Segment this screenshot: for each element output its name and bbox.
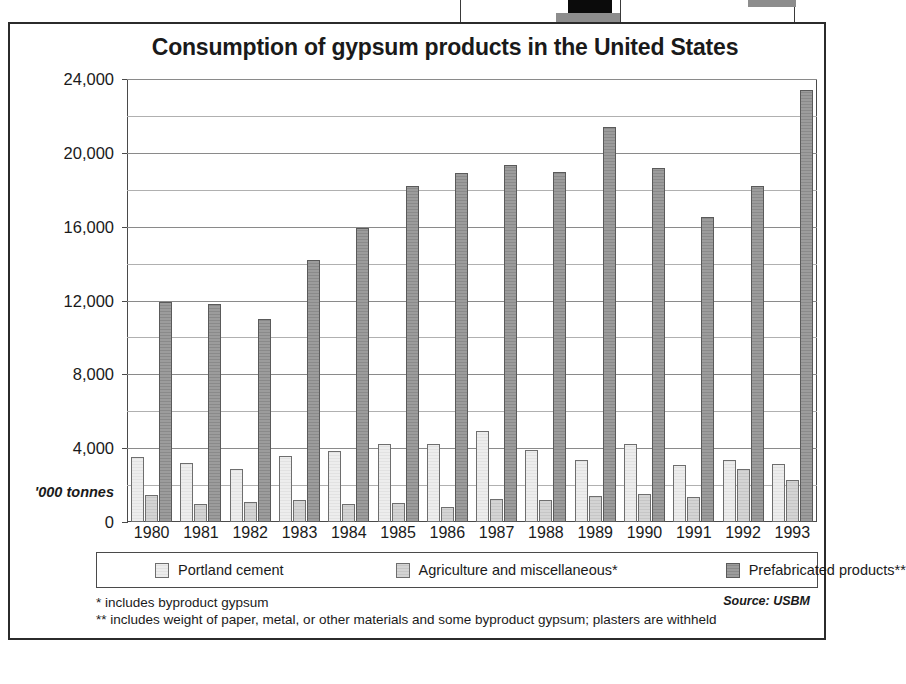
x-axis-tick-label: 1990: [620, 524, 669, 548]
bar-group: [176, 79, 225, 522]
bar-1982-series-1: [244, 502, 257, 522]
x-axis-tick-label: 1988: [521, 524, 570, 548]
bar-1992-series-0: [723, 460, 736, 522]
bar-group: [324, 79, 373, 522]
bar-1985-series-2: [406, 186, 419, 522]
chart-legend: Portland cementAgriculture and miscellan…: [96, 552, 818, 588]
bar-1986-series-0: [427, 444, 440, 522]
footnote-2: ** includes weight of paper, metal, or o…: [96, 611, 818, 628]
legend-item-0: Portland cement: [155, 562, 284, 578]
bar-1985-series-0: [378, 444, 391, 522]
bar-group: [226, 79, 275, 522]
legend-label: Prefabricated products**: [749, 562, 906, 578]
bar-1980-series-0: [131, 457, 144, 522]
x-axis-tick-label: 1991: [669, 524, 718, 548]
bar-1993-series-1: [786, 480, 799, 522]
y-axis-tick-mark: [122, 522, 128, 523]
bar-1985-series-1: [392, 503, 405, 522]
plot-area: [127, 79, 817, 522]
x-axis-tick-label: 1993: [768, 524, 817, 548]
bar-1993-series-2: [800, 90, 813, 522]
source-credit: Source: USBM: [723, 594, 810, 608]
adjacent-figure-fragment: [460, 0, 844, 22]
bar-group: [620, 79, 669, 522]
bar-1986-series-1: [441, 507, 454, 522]
x-axis-tick-label: 1987: [472, 524, 521, 548]
bar-1982-series-2: [258, 319, 271, 522]
y-axis-tick-label: 0: [105, 513, 114, 532]
fragment-base-bar-right: [748, 0, 796, 7]
x-axis-tick-label: 1985: [373, 524, 422, 548]
x-axis-tick-label: 1986: [423, 524, 472, 548]
bar-1988-series-0: [525, 450, 538, 522]
footnotes: * includes byproduct gypsum ** includes …: [96, 594, 818, 628]
legend-swatch-icon: [726, 563, 740, 578]
bar-1984-series-1: [342, 504, 355, 522]
bar-group: [768, 79, 817, 522]
bar-1987-series-0: [476, 431, 489, 522]
x-axis-tick-label: 1983: [275, 524, 324, 548]
bar-1981-series-2: [208, 304, 221, 522]
bar-group: [669, 79, 718, 522]
bar-1983-series-2: [307, 260, 320, 522]
legend-item-2: Prefabricated products**: [726, 562, 906, 578]
bar-1981-series-0: [180, 463, 193, 522]
bar-group: [571, 79, 620, 522]
chart-title: Consumption of gypsum products in the Un…: [10, 34, 824, 61]
y-axis-tick-label: 8,000: [73, 365, 114, 384]
x-axis: 1980198119821983198419851986198719881989…: [127, 524, 817, 548]
bar-1991-series-2: [701, 217, 714, 522]
x-axis-tick-label: 1981: [176, 524, 225, 548]
bar-1981-series-1: [194, 504, 207, 522]
y-axis: 04,0008,00012,00016,00020,00024,000'000 …: [10, 79, 122, 522]
bar-1993-series-0: [772, 464, 785, 522]
bar-1989-series-0: [575, 460, 588, 522]
bar-1987-series-1: [490, 499, 503, 522]
bar-1990-series-0: [624, 444, 637, 522]
legend-swatch-icon: [155, 563, 169, 578]
fragment-base-bar: [556, 13, 620, 22]
bar-group: [373, 79, 422, 522]
bar-1991-series-1: [687, 497, 700, 522]
chart-figure: Consumption of gypsum products in the Un…: [8, 22, 826, 640]
bar-1984-series-2: [356, 228, 369, 522]
bar-group: [718, 79, 767, 522]
bar-1980-series-1: [145, 495, 158, 522]
bar-1984-series-0: [328, 451, 341, 522]
x-axis-tick-label: 1992: [718, 524, 767, 548]
bar-1982-series-0: [230, 469, 243, 522]
legend-label: Agriculture and miscellaneous*: [419, 562, 618, 578]
y-axis-tick-label: 24,000: [64, 70, 114, 89]
y-axis-tick-label: 12,000: [64, 291, 114, 310]
bar-1992-series-1: [737, 469, 750, 522]
bar-1990-series-1: [638, 494, 651, 522]
x-axis-tick-label: 1984: [324, 524, 373, 548]
bar-group: [423, 79, 472, 522]
bar-1987-series-2: [504, 165, 517, 522]
y-axis-tick-label: 4,000: [73, 439, 114, 458]
bar-1989-series-1: [589, 496, 602, 522]
bar-1983-series-0: [279, 456, 292, 522]
bar-1988-series-2: [553, 172, 566, 522]
legend-label: Portland cement: [178, 562, 284, 578]
x-axis-tick-label: 1982: [226, 524, 275, 548]
y-axis-tick-label: 16,000: [64, 217, 114, 236]
y-axis-tick-label: 20,000: [64, 143, 114, 162]
y-axis-unit-label: '000 tonnes: [35, 484, 114, 500]
x-axis-tick-label: 1989: [571, 524, 620, 548]
bar-group: [472, 79, 521, 522]
x-axis-tick-label: 1980: [127, 524, 176, 548]
bar-group: [521, 79, 570, 522]
bar-groups: [127, 79, 817, 522]
bar-1983-series-1: [293, 500, 306, 522]
bar-1986-series-2: [455, 173, 468, 522]
footnote-1: * includes byproduct gypsum: [96, 594, 818, 611]
bar-1990-series-2: [652, 168, 665, 522]
bar-1980-series-2: [159, 302, 172, 522]
bar-1989-series-2: [603, 127, 616, 522]
fragment-dark-block: [568, 0, 612, 14]
bar-1991-series-0: [673, 465, 686, 522]
legend-item-1: Agriculture and miscellaneous*: [396, 562, 618, 578]
legend-swatch-icon: [396, 563, 410, 578]
bar-group: [127, 79, 176, 522]
